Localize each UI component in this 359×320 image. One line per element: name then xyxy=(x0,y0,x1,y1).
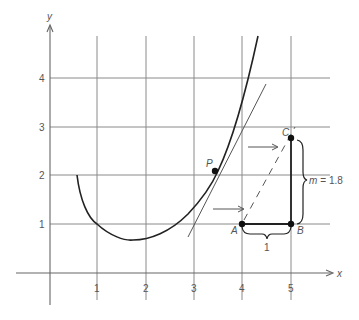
point-P xyxy=(212,168,218,174)
tangent-diagram: x y 1 2 3 4 5 1 2 3 4 P A B C 1 m= 1.8 xyxy=(0,0,359,320)
x-tick-5: 5 xyxy=(288,283,294,294)
x-tick-2: 2 xyxy=(143,283,149,294)
function-curve xyxy=(77,36,258,240)
x-tick-labels: 1 2 3 4 5 xyxy=(94,283,294,294)
dashed-slope-line xyxy=(244,127,295,220)
run-label: 1 xyxy=(264,242,270,253)
run-brace xyxy=(242,227,291,239)
label-B: B xyxy=(297,225,304,236)
y-tick-2: 2 xyxy=(39,170,45,181)
y-tick-3: 3 xyxy=(39,122,45,133)
rise-var: m xyxy=(309,175,317,186)
rise-brace xyxy=(297,140,307,224)
x-tick-3: 3 xyxy=(191,283,197,294)
point-A xyxy=(239,221,245,227)
y-tick-labels: 1 2 3 4 xyxy=(39,73,45,230)
rise-value: = 1.8 xyxy=(320,175,343,186)
y-tick-1: 1 xyxy=(39,219,45,230)
label-C: C xyxy=(282,127,290,138)
x-axis-label: x xyxy=(336,268,343,279)
pointer-arrows xyxy=(213,144,278,212)
label-A: A xyxy=(230,225,238,236)
point-B xyxy=(288,221,294,227)
y-axis-label: y xyxy=(46,11,53,22)
grid xyxy=(50,36,330,300)
label-P: P xyxy=(206,158,213,169)
y-tick-4: 4 xyxy=(39,73,45,84)
x-tick-4: 4 xyxy=(239,283,245,294)
rise-label: m= 1.8 xyxy=(309,175,343,186)
x-tick-1: 1 xyxy=(94,283,100,294)
axes xyxy=(16,25,333,305)
tangent-line xyxy=(188,84,266,237)
